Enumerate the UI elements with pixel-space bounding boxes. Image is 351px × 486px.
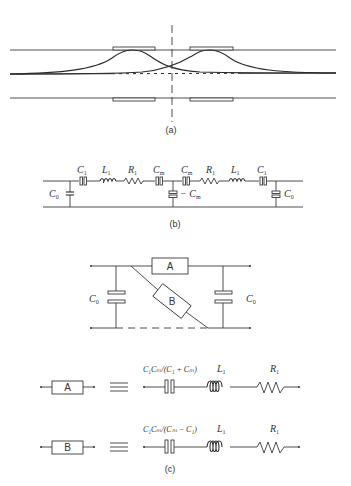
equiv-box-b-label: B [64, 442, 71, 453]
network-label-c0-left: C0 [89, 293, 99, 305]
label-c1-left: C1 [77, 164, 87, 176]
label-c1-right: C1 [257, 164, 267, 176]
equiv-capacitor-a [165, 380, 174, 393]
inductor-l1-right [229, 179, 245, 182]
crystal-filter-figure: (a) C0 C1 L1 R1 [0, 0, 351, 486]
network-capacitor-c0-left [108, 266, 125, 328]
label-r1-left: R1 [127, 164, 137, 176]
capacitor-c0-left [66, 181, 74, 207]
label-neg-cm: − Cm [180, 188, 201, 200]
capacitor-neg-cm [169, 181, 177, 207]
capacitor-cm-right [183, 177, 190, 185]
electrode-bottom-left [113, 98, 155, 101]
caption-a: (a) [166, 125, 177, 135]
mode-curve-right [10, 50, 336, 74]
caption-c: (c) [165, 464, 176, 474]
equiv-ind-label-b: L1 [216, 423, 226, 435]
inductor-l1-left [100, 179, 116, 183]
label-cm-left: Cm [153, 164, 165, 176]
equiv-cap-label-a: C₁Cₘ/(C₁ + Cₘ) [143, 365, 197, 374]
equiv-box-a-label: A [64, 382, 71, 393]
label-c0-left: C0 [49, 188, 59, 200]
panel-c-network: A C0 C0 B [89, 258, 256, 329]
equiv-capacitor-b [165, 440, 174, 453]
label-r1-right: R1 [205, 164, 215, 176]
network-label-c0-right: C0 [246, 293, 256, 305]
equiv-resistor-b [257, 442, 284, 453]
resistor-r1-left [124, 178, 143, 184]
equiv-inductor-a [207, 381, 222, 392]
capacitor-cm-left [156, 177, 163, 185]
network-box-a-label: A [167, 261, 174, 272]
equiv-cap-label-b: C₁Cₘ/(Cₘ − C₁) [143, 425, 197, 434]
equivalent-row-b: B C₁Cₘ/(Cₘ − C₁) L1 R1 [40, 423, 300, 454]
equivalence-sign-b [110, 443, 128, 451]
equiv-resistor-a [257, 382, 284, 393]
network-box-b-label: B [169, 296, 176, 307]
equiv-res-label-a: R1 [269, 363, 279, 375]
label-l1-left: L1 [101, 164, 111, 176]
equiv-ind-label-a: L1 [216, 363, 226, 375]
label-cm-right: Cm [181, 164, 193, 176]
capacitor-c1-left [80, 177, 87, 185]
panel-b: C0 C1 L1 R1 Cm − Cm [43, 164, 303, 229]
panel-a: (a) [10, 25, 336, 135]
electrode-bottom-right [190, 98, 233, 101]
mode-curve-left [10, 50, 336, 74]
caption-b: (b) [170, 219, 181, 229]
capacitor-c0-right [272, 181, 280, 207]
resistor-r1-right [200, 178, 219, 184]
capacitor-c1-right [260, 177, 267, 185]
equiv-res-label-b: R1 [269, 423, 279, 435]
equivalence-sign-a [110, 383, 128, 391]
equivalent-row-a: A C₁Cₘ/(C₁ + Cₘ) L1 R1 [40, 363, 300, 394]
network-capacitor-c0-right [215, 266, 232, 328]
label-l1-right: L1 [230, 164, 240, 176]
equiv-inductor-b [207, 441, 222, 452]
label-c0-right: C0 [284, 188, 294, 200]
